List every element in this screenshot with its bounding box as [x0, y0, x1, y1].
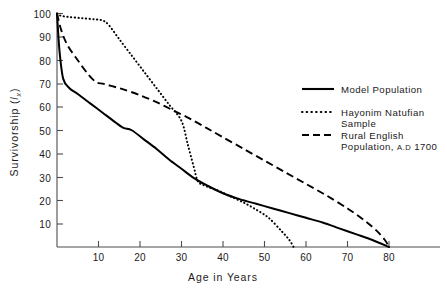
y-tick-label-20: 20: [39, 196, 51, 207]
x-tick-label-30: 30: [176, 252, 188, 263]
x-tick-label-20: 20: [134, 252, 146, 263]
y-tick-label-80: 80: [39, 56, 51, 67]
x-tick-label-60: 60: [300, 252, 312, 263]
y-tick-label-70: 70: [39, 79, 51, 90]
y-axis-title-prefix: Survivorship (: [8, 100, 20, 177]
legend-rural-prefix: Population,: [341, 141, 397, 152]
y-tick-label-40: 40: [39, 149, 51, 160]
legend-rural-year: 1700: [411, 141, 437, 152]
y-tick-label-90: 90: [39, 32, 51, 43]
y-tick-label-10: 10: [39, 219, 51, 230]
y-tick-label-30: 30: [39, 173, 51, 184]
legend-label-rural-english-line1: Rural English: [341, 130, 404, 141]
y-tick-label-50: 50: [39, 126, 51, 137]
x-tick-label-70: 70: [342, 252, 354, 263]
legend-label-hayonim-line1: Hayonim Natufian: [341, 107, 424, 118]
x-tick-label-10: 10: [93, 252, 105, 263]
survivorship-chart: 100 90 80 70 60 50 40 30 20 10 10 20 30 …: [0, 0, 447, 288]
x-axis-title: Age in Years: [188, 271, 258, 283]
x-tick-label-80: 80: [383, 252, 395, 263]
x-tick-label-40: 40: [217, 252, 229, 263]
y-axis-title-group: Survivorship (lx): [8, 88, 22, 177]
legend-label-model-population: Model Population: [341, 84, 422, 95]
y-axis-title-suffix: ): [8, 88, 20, 92]
legend-rural-ad: A.D: [397, 143, 411, 152]
x-tick-label-50: 50: [259, 252, 271, 263]
y-tick-label-60: 60: [39, 102, 51, 113]
legend-label-rural-english-line2: Population, A.D 1700: [341, 141, 437, 152]
y-axis-title: Survivorship (lx): [8, 88, 22, 177]
legend-label-hayonim-line2: Sample: [341, 118, 376, 129]
y-tick-label-100: 100: [33, 9, 51, 20]
